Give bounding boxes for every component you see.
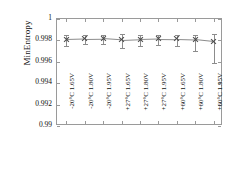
x-axis-tick-label: +27°C 1.95V bbox=[160, 73, 168, 129]
y-axis-tick-label: 0.998 bbox=[0, 34, 52, 43]
x-axis-tick-label: +27°C 1.80V bbox=[142, 73, 150, 129]
y-axis-tick-label: 1 bbox=[0, 13, 52, 22]
data-point-marker bbox=[81, 35, 88, 42]
error-bar-cap bbox=[138, 46, 143, 47]
error-bar-cap bbox=[64, 46, 69, 47]
y-axis-tick-label: 0.996 bbox=[0, 56, 52, 65]
x-axis-tick-label: -20°C 1.65V bbox=[68, 73, 76, 129]
error-bar-cap bbox=[193, 51, 198, 52]
y-axis-tick bbox=[57, 62, 60, 63]
x-axis-tick bbox=[103, 121, 104, 124]
y-axis-tick bbox=[57, 105, 60, 106]
x-axis-tick-label: -20°C 1.80V bbox=[87, 73, 95, 129]
x-axis-tick bbox=[195, 19, 196, 22]
y-axis-tick-label: 0.992 bbox=[0, 99, 52, 108]
error-bar-cap bbox=[120, 34, 125, 35]
x-axis-tick bbox=[214, 121, 215, 124]
y-axis-tick bbox=[218, 40, 221, 41]
x-axis-tick-label: +27°C 1.65V bbox=[124, 73, 132, 129]
x-axis-tick bbox=[177, 121, 178, 124]
error-bar-cap bbox=[101, 44, 106, 45]
x-axis-tick bbox=[140, 19, 141, 22]
error-bar-cap bbox=[120, 48, 125, 49]
chart-figure: MinEntropy 0.990.9920.9940.9960.9981 -20… bbox=[0, 0, 237, 188]
x-axis-tick bbox=[122, 121, 123, 124]
data-point-marker bbox=[63, 36, 70, 43]
data-point-marker bbox=[100, 35, 107, 42]
error-bar-cap bbox=[212, 63, 217, 64]
x-axis-tick-label: +60°C 1.65V bbox=[179, 73, 187, 129]
x-axis-tick bbox=[177, 19, 178, 22]
x-axis-tick bbox=[122, 19, 123, 22]
x-axis-tick-label: +60°C 1.95V bbox=[216, 73, 224, 129]
y-axis-tick bbox=[57, 40, 60, 41]
y-axis-tick bbox=[218, 19, 221, 20]
y-axis-tick bbox=[57, 83, 60, 84]
data-point-marker bbox=[210, 38, 217, 45]
data-point-marker bbox=[173, 35, 180, 42]
x-axis-tick bbox=[85, 121, 86, 124]
error-bar-cap bbox=[156, 45, 161, 46]
data-point-marker bbox=[155, 35, 162, 42]
data-point-marker bbox=[137, 36, 144, 43]
error-bar-cap bbox=[83, 44, 88, 45]
y-axis-tick bbox=[57, 126, 60, 127]
x-axis-tick bbox=[85, 19, 86, 22]
y-axis-tick-label: 0.99 bbox=[0, 120, 52, 129]
x-axis-tick-label: +60°C 1.80V bbox=[197, 73, 205, 129]
data-point-marker bbox=[118, 36, 125, 43]
y-axis-tick-label: 0.994 bbox=[0, 77, 52, 86]
error-bar-cap bbox=[212, 34, 217, 35]
error-bar-cap bbox=[175, 46, 180, 47]
x-axis-tick bbox=[103, 19, 104, 22]
y-axis-tick bbox=[57, 19, 60, 20]
y-axis-tick bbox=[218, 62, 221, 63]
x-axis-tick-label: -20°C 1.95V bbox=[105, 73, 113, 129]
x-axis-tick bbox=[66, 19, 67, 22]
x-axis-tick bbox=[214, 19, 215, 22]
data-point-marker bbox=[192, 36, 199, 43]
x-axis-tick bbox=[158, 19, 159, 22]
x-axis-tick bbox=[140, 121, 141, 124]
